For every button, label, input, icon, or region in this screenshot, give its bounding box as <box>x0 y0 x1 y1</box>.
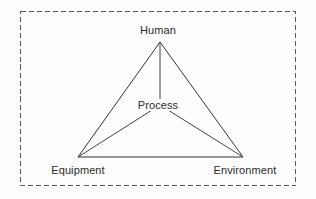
node-label-process-text: Process <box>136 99 180 111</box>
edge-process-to-environment <box>160 105 243 157</box>
node-label-environment: Environment <box>199 164 291 176</box>
node-label-equipment: Equipment <box>38 164 118 176</box>
edge-process-to-equipment <box>78 105 160 157</box>
node-label-process: Process <box>0 99 316 111</box>
diagram-figure: Human Process Equipment Environment <box>0 0 316 199</box>
node-label-human: Human <box>0 24 316 36</box>
